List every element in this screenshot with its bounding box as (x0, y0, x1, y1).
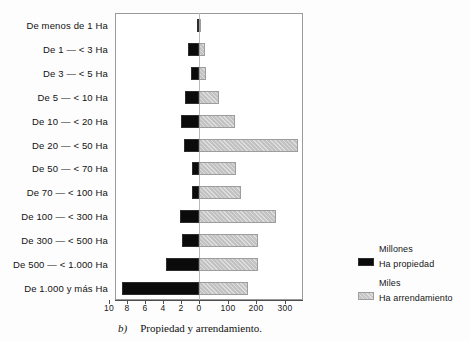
axis-tick-label: 100 (215, 303, 241, 313)
bar-ha-arrendamiento (199, 91, 219, 104)
bar-ha-propiedad (180, 210, 199, 223)
chart-row: De 5 — < 10 Ha (0, 86, 470, 110)
bar-ha-arrendamiento (199, 67, 206, 80)
category-label: De 50 — < 70 Ha (0, 157, 108, 181)
bar-ha-arrendamiento (199, 186, 241, 199)
axis-tick-label: 300 (272, 303, 298, 313)
bar-ha-arrendamiento (199, 162, 236, 175)
legend-item-ha-propiedad: Ha propiedad (358, 255, 468, 268)
category-label: De 10 — < 20 Ha (0, 110, 108, 134)
chart-row: De 70 — < 100 Ha (0, 181, 470, 205)
bar-ha-propiedad (182, 234, 199, 247)
chart-row: De 50 — < 70 Ha (0, 157, 470, 181)
grey-hatch-swatch-icon (358, 292, 374, 300)
black-swatch-icon (358, 258, 374, 266)
chart-row: De 20 — < 50 Ha (0, 134, 470, 158)
figure-caption: b)Propiedad y arrendamiento. (118, 322, 368, 334)
axis-tick-label: 200 (243, 303, 269, 313)
bar-ha-propiedad (181, 115, 199, 128)
chart-row: De 100 — < 300 Ha (0, 205, 470, 229)
figure-bidirectional-bar-chart: De menos de 1 HaDe 1 — < 3 HaDe 3 — < 5 … (0, 0, 470, 341)
bar-ha-propiedad (185, 91, 199, 104)
caption-text: Propiedad y arrendamiento. (140, 322, 262, 334)
category-label: De 20 — < 50 Ha (0, 134, 108, 158)
chart-legend: Millones Ha propiedad Miles Ha arrendami… (358, 243, 468, 311)
legend-item-ha-arrendamiento: Ha arrendamiento (358, 289, 468, 302)
bar-ha-arrendamiento (199, 210, 276, 223)
bar-ha-arrendamiento (199, 234, 258, 247)
x-axis-line (115, 300, 303, 301)
bar-ha-arrendamiento (199, 115, 235, 128)
bar-ha-arrendamiento (199, 258, 258, 271)
caption-letter: b) (118, 322, 127, 334)
bar-ha-propiedad (188, 43, 199, 56)
legend-group-arrendamiento: Miles Ha arrendamiento (358, 277, 468, 302)
category-label: De 70 — < 100 Ha (0, 181, 108, 205)
category-label: De 1 — < 3 Ha (0, 38, 108, 62)
bar-ha-propiedad (191, 67, 199, 80)
category-label: De 100 — < 300 Ha (0, 205, 108, 229)
category-label: De 300 — < 500 Ha (0, 229, 108, 253)
bar-ha-arrendamiento (199, 43, 205, 56)
chart-row: De 10 — < 20 Ha (0, 110, 470, 134)
category-label: De 3 — < 5 Ha (0, 62, 108, 86)
bar-ha-propiedad (192, 162, 199, 175)
category-label: De menos de 1 Ha (0, 14, 108, 38)
legend-group-propiedad: Millones Ha propiedad (358, 243, 468, 268)
chart-row: De 3 — < 5 Ha (0, 62, 470, 86)
bar-ha-arrendamiento (199, 19, 201, 32)
chart-row: De 1 — < 3 Ha (0, 38, 470, 62)
axis-tick-label: 0 (186, 303, 212, 313)
category-label: De 500 — < 1.000 Ha (0, 253, 108, 277)
legend-label-ha-arrendamiento: Ha arrendamiento (379, 293, 453, 303)
bar-ha-propiedad (192, 186, 199, 199)
category-label: De 5 — < 10 Ha (0, 86, 108, 110)
legend-unit-millones: Millones (379, 243, 468, 255)
category-label: De 1.000 y más Ha (0, 277, 108, 301)
bar-ha-propiedad (122, 282, 199, 295)
chart-row: De menos de 1 Ha (0, 14, 470, 38)
legend-unit-miles: Miles (379, 277, 468, 289)
bar-ha-propiedad (166, 258, 199, 271)
bar-ha-propiedad (184, 139, 199, 152)
legend-label-ha-propiedad: Ha propiedad (379, 259, 434, 269)
bar-ha-arrendamiento (199, 139, 298, 152)
bar-ha-arrendamiento (199, 282, 248, 295)
